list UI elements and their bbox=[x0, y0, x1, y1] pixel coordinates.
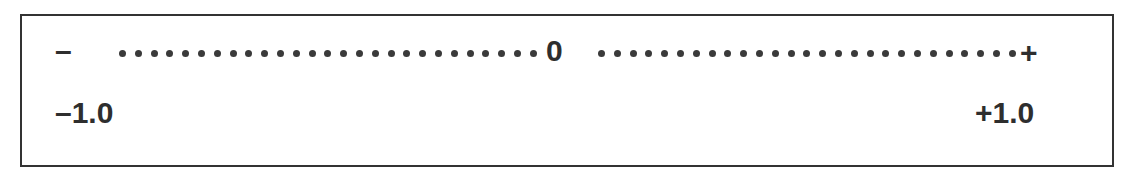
dot bbox=[914, 50, 921, 57]
dot bbox=[724, 50, 731, 57]
dot bbox=[835, 50, 842, 57]
dot bbox=[645, 50, 652, 57]
dot bbox=[946, 50, 953, 57]
dot bbox=[277, 50, 284, 57]
dot bbox=[151, 50, 158, 57]
dot bbox=[182, 50, 189, 57]
dot bbox=[372, 50, 379, 57]
dot bbox=[419, 50, 426, 57]
dot bbox=[930, 50, 937, 57]
dot bbox=[977, 50, 984, 57]
dot bbox=[1009, 50, 1016, 57]
dot bbox=[898, 50, 905, 57]
positive-symbol: + bbox=[1020, 38, 1038, 68]
center-zero: 0 bbox=[546, 36, 563, 66]
dot bbox=[598, 50, 605, 57]
dot bbox=[867, 50, 874, 57]
dot bbox=[661, 50, 668, 57]
negative-symbol: – bbox=[55, 36, 72, 66]
dot bbox=[756, 50, 763, 57]
dot bbox=[135, 50, 142, 57]
dot bbox=[451, 50, 458, 57]
dot bbox=[514, 50, 521, 57]
dot bbox=[356, 50, 363, 57]
dotted-line-right bbox=[598, 50, 1028, 60]
dot bbox=[388, 50, 395, 57]
dot bbox=[803, 50, 810, 57]
dot bbox=[324, 50, 331, 57]
dot bbox=[119, 50, 126, 57]
dot bbox=[403, 50, 410, 57]
dot bbox=[340, 50, 347, 57]
dot bbox=[530, 50, 537, 57]
dot bbox=[788, 50, 795, 57]
dot bbox=[309, 50, 316, 57]
dot bbox=[498, 50, 505, 57]
dot bbox=[230, 50, 237, 57]
dotted-line-left bbox=[119, 50, 559, 60]
dot bbox=[677, 50, 684, 57]
dot bbox=[961, 50, 968, 57]
dot bbox=[772, 50, 779, 57]
dot bbox=[882, 50, 889, 57]
max-value-label: +1.0 bbox=[975, 98, 1034, 128]
scale-frame bbox=[20, 14, 1114, 167]
dot bbox=[482, 50, 489, 57]
dot bbox=[435, 50, 442, 57]
min-value-label: –1.0 bbox=[55, 98, 113, 128]
dot bbox=[198, 50, 205, 57]
dot bbox=[614, 50, 621, 57]
dot bbox=[630, 50, 637, 57]
dot bbox=[693, 50, 700, 57]
dot bbox=[819, 50, 826, 57]
dot bbox=[993, 50, 1000, 57]
dot bbox=[851, 50, 858, 57]
dot bbox=[709, 50, 716, 57]
dot bbox=[740, 50, 747, 57]
dot bbox=[467, 50, 474, 57]
dot bbox=[261, 50, 268, 57]
dot bbox=[293, 50, 300, 57]
dot bbox=[166, 50, 173, 57]
dot bbox=[245, 50, 252, 57]
dot bbox=[214, 50, 221, 57]
